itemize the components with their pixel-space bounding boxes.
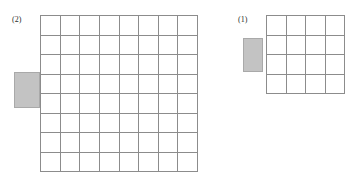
grid-cell	[178, 16, 198, 36]
grid-cell	[80, 114, 100, 134]
grid-cell	[61, 55, 81, 75]
grid-cell	[326, 55, 346, 75]
grid-cell	[326, 75, 346, 95]
grid-cell	[178, 94, 198, 114]
grid-cell	[267, 75, 287, 95]
grid-cell	[100, 16, 120, 36]
grid-cell	[287, 75, 307, 95]
grid-cell	[139, 153, 159, 173]
grid-cell	[100, 153, 120, 173]
grid-cell	[139, 75, 159, 95]
grid-cell	[159, 133, 179, 153]
grid-cell	[287, 36, 307, 56]
grid-cell	[41, 153, 61, 173]
grid-cell	[61, 153, 81, 173]
grid-cell	[139, 16, 159, 36]
grid-cell	[41, 55, 61, 75]
grid-cell	[267, 55, 287, 75]
grid-cell	[326, 36, 346, 56]
grid-cell	[100, 114, 120, 134]
grid-cell	[61, 36, 81, 56]
grid-cell	[100, 36, 120, 56]
grid-cell	[139, 94, 159, 114]
grid-cell	[80, 75, 100, 95]
grid-cell	[100, 133, 120, 153]
grid-cell	[120, 114, 140, 134]
grid-cell	[139, 114, 159, 134]
grid-cell	[139, 133, 159, 153]
grid-cell	[159, 16, 179, 36]
grid-cell	[120, 133, 140, 153]
grid-cell	[41, 36, 61, 56]
grid-cell	[80, 16, 100, 36]
grid-cell	[287, 55, 307, 75]
grid-cell	[120, 94, 140, 114]
grid-cell	[41, 114, 61, 134]
grid-cell	[306, 16, 326, 36]
grid-cell	[41, 16, 61, 36]
grid-cell	[80, 153, 100, 173]
grid-cell	[159, 94, 179, 114]
grid-cell	[306, 55, 326, 75]
figure-right-gray-bar	[243, 38, 263, 72]
grid-cell	[120, 55, 140, 75]
grid-cell	[120, 75, 140, 95]
grid-cell	[61, 94, 81, 114]
figure-left-label: (2)	[12, 16, 21, 24]
grid-cell	[80, 94, 100, 114]
grid-cell	[80, 55, 100, 75]
grid-cell	[41, 133, 61, 153]
grid-cell	[100, 55, 120, 75]
grid-cell	[326, 16, 346, 36]
grid-cell	[80, 36, 100, 56]
grid-cell	[178, 75, 198, 95]
grid-cell	[159, 153, 179, 173]
grid-cell	[100, 94, 120, 114]
grid-cell	[159, 75, 179, 95]
grid-cell	[287, 16, 307, 36]
grid-cell	[61, 133, 81, 153]
grid-cell	[178, 55, 198, 75]
grid-cell	[61, 114, 81, 134]
grid-cell	[306, 75, 326, 95]
grid-cell	[100, 75, 120, 95]
grid-cell	[267, 16, 287, 36]
grid-cell	[178, 153, 198, 173]
grid-cell	[139, 36, 159, 56]
grid-cell	[61, 75, 81, 95]
grid-cell	[178, 114, 198, 134]
figure-left-grid	[40, 15, 198, 172]
figure-left-gray-bar	[14, 72, 40, 108]
grid-cell	[120, 153, 140, 173]
grid-cell	[267, 36, 287, 56]
grid-cell	[120, 16, 140, 36]
grid-cell	[61, 16, 81, 36]
grid-cell	[41, 94, 61, 114]
grid-cell	[159, 55, 179, 75]
grid-cell	[80, 133, 100, 153]
grid-cell	[159, 114, 179, 134]
figure-right-grid	[266, 15, 345, 94]
grid-cell	[159, 36, 179, 56]
grid-cell	[41, 75, 61, 95]
grid-cell	[306, 36, 326, 56]
figure-right-label: (1)	[238, 16, 247, 24]
grid-cell	[178, 36, 198, 56]
grid-cell	[178, 133, 198, 153]
grid-cell	[139, 55, 159, 75]
grid-cell	[120, 36, 140, 56]
